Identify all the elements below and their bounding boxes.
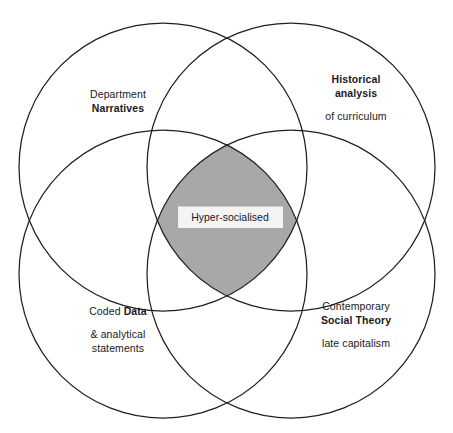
region-bottom-right-line3: late capitalism bbox=[286, 337, 426, 351]
region-bottom-right-line2: Social Theory bbox=[286, 314, 426, 328]
region-bottom-left-line2: Data bbox=[124, 305, 147, 317]
core-intersection-label: Hyper-socialised bbox=[178, 206, 282, 228]
region-bottom-left-spacer bbox=[50, 319, 186, 328]
region-top-right-spacer bbox=[288, 101, 424, 110]
region-top-left-line2: Narratives bbox=[52, 102, 184, 116]
core-intersection-label-text: Hyper-socialised bbox=[191, 211, 269, 223]
region-top-right-line2: analysis bbox=[288, 87, 424, 101]
venn-diagram: Department Narratives Historical analysi… bbox=[0, 0, 453, 433]
region-label-top-right: Historical analysis of curriculum bbox=[288, 73, 424, 124]
region-bottom-right-spacer bbox=[286, 328, 426, 337]
region-top-left-line1: Department bbox=[52, 88, 184, 102]
region-top-right-line1: Historical bbox=[288, 73, 424, 87]
region-label-bottom-left: Coded Data & analytical statements bbox=[50, 305, 186, 356]
region-label-bottom-right: Contemporary Social Theory late capitali… bbox=[286, 300, 426, 351]
region-bottom-left-line1-group: Coded Data bbox=[50, 305, 186, 319]
region-top-right-line3: of curriculum bbox=[288, 110, 424, 124]
region-label-top-left: Department Narratives bbox=[52, 88, 184, 116]
region-bottom-left-line1: Coded bbox=[89, 305, 123, 317]
region-bottom-left-line3: & analytical bbox=[50, 328, 186, 342]
region-bottom-left-line4: statements bbox=[50, 342, 186, 356]
core-intersection-shading bbox=[147, 130, 435, 418]
core-lens-shape bbox=[147, 130, 435, 418]
region-bottom-right-line1: Contemporary bbox=[286, 300, 426, 314]
